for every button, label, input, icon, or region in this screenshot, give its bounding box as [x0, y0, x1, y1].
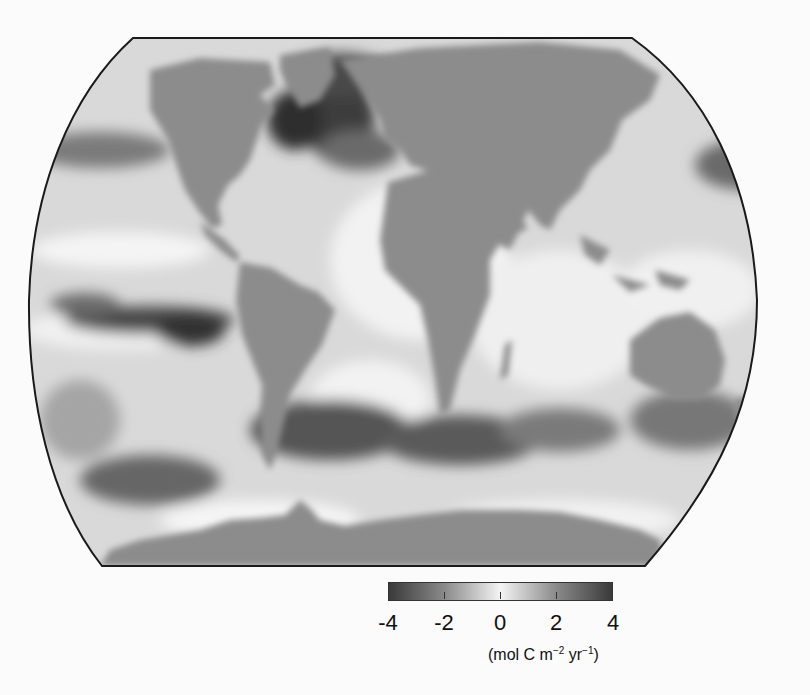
colorbar-tick-label: 0 — [494, 610, 506, 636]
colorbar-tick — [444, 592, 445, 599]
colorbar-units: (mol C m−2 yr−1) — [488, 645, 599, 664]
colorbar-tick-label: -2 — [434, 610, 454, 636]
colorbar-tick-label: 4 — [607, 610, 619, 636]
colorbar-tick-label: -4 — [378, 610, 398, 636]
flux-map-figure: -4 -2 0 2 4 (mol C m−2 yr−1) — [0, 0, 810, 695]
colorbar-tick-label: 2 — [550, 610, 562, 636]
colorbar-tick — [500, 592, 501, 599]
colorbar-tick — [556, 592, 557, 599]
